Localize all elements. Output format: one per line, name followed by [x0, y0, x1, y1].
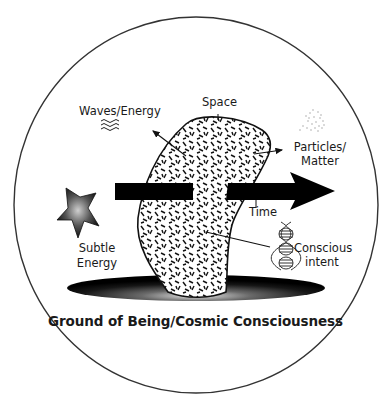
star-icon [57, 188, 99, 238]
diagram-svg [0, 0, 391, 404]
diagram-title: Ground of Being/Cosmic Consciousness [0, 313, 391, 329]
label-subtle-line1: Subtle [72, 241, 122, 255]
label-conscious-line1: Conscious [294, 241, 352, 255]
wave-icon [101, 120, 119, 131]
time-arrow-left-bar [115, 183, 193, 200]
label-subtle-line2: Energy [72, 256, 122, 270]
diagram-canvas: Waves/Energy Space Particles/ Matter Tim… [0, 0, 391, 404]
label-particles-line1: Particles/ [291, 140, 349, 154]
particle-cloud-icon [299, 109, 324, 131]
label-conscious-line2: intent [305, 255, 339, 269]
label-particles-line2: Matter [291, 154, 349, 168]
label-space: Space [202, 95, 237, 109]
label-waves-energy: Waves/Energy [79, 104, 161, 118]
label-time: Time [249, 205, 277, 219]
